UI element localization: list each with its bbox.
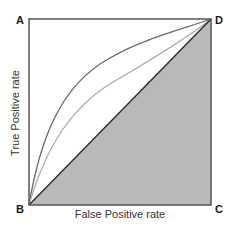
corner-label-b: B bbox=[16, 203, 24, 215]
corner-label-a: A bbox=[16, 14, 24, 26]
roc-diagram: A D B C False Positive rate True Positiv… bbox=[0, 0, 235, 228]
x-axis-label: False Positive rate bbox=[75, 208, 165, 220]
corner-label-c: C bbox=[215, 203, 223, 215]
corner-label-d: D bbox=[215, 14, 223, 26]
y-axis-label: True Positive rate bbox=[9, 70, 21, 156]
